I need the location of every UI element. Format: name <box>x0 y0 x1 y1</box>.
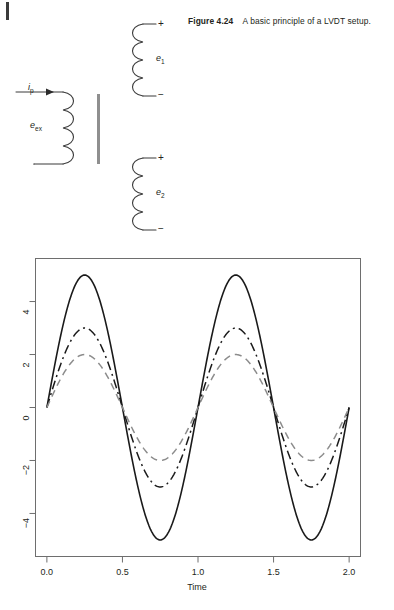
y-tick-label: 2 <box>21 353 31 377</box>
waveform-chart-svg <box>0 240 394 610</box>
figure-caption-text: A basic principle of a LVDT setup. <box>243 16 371 26</box>
sec2-plus-sign: + <box>158 153 164 163</box>
lvdt-diagram: ip eex + − e1 + − e2 Figure 4.24 A basic… <box>0 0 394 245</box>
primary-voltage-label: eex <box>30 120 42 132</box>
lvdt-diagram-svg <box>0 0 394 245</box>
x-tick-label: 1.5 <box>254 567 294 577</box>
data-curves <box>47 275 349 540</box>
x-tick-label: 0.0 <box>27 567 67 577</box>
x-tick-label: 0.5 <box>102 567 142 577</box>
figure-page: ip eex + − e1 + − e2 Figure 4.24 A basic… <box>0 0 394 610</box>
primary-coil-loops <box>63 92 74 164</box>
sec1-voltage-label: e1 <box>156 53 165 65</box>
x-tick-label: 1.0 <box>178 567 218 577</box>
waveform-chart: 420−2−4 0.00.51.01.52.0 Time <box>0 240 394 610</box>
figure-caption-label: Figure 4.24 <box>188 16 233 26</box>
core-bar <box>97 94 100 164</box>
sec2-minus-sign: − <box>158 224 164 234</box>
sec2-voltage-label: e2 <box>156 187 165 199</box>
axis-ticks <box>30 302 350 563</box>
sec1-minus-sign: − <box>158 90 164 100</box>
figure-caption: Figure 4.24 A basic principle of a LVDT … <box>188 16 394 27</box>
y-tick-label: 4 <box>21 300 31 324</box>
y-tick-label: −4 <box>21 511 31 535</box>
y-tick-label: −2 <box>21 458 31 482</box>
current-arrow-icon <box>46 89 54 96</box>
x-axis-title: Time <box>0 582 394 592</box>
sec1-coil-loops <box>133 24 144 96</box>
x-tick-label: 2.0 <box>329 567 369 577</box>
sec2-coil-loops <box>133 158 144 230</box>
series-secondary-2 <box>47 355 349 461</box>
primary-current-label: ip <box>28 82 34 94</box>
y-tick-label: 0 <box>21 406 31 430</box>
sec1-plus-sign: + <box>158 19 164 29</box>
